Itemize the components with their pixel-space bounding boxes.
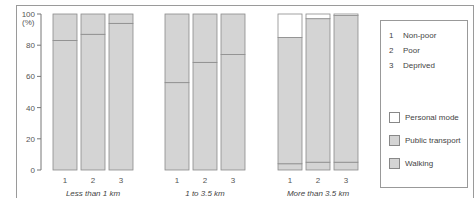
x-category-label: 3 bbox=[231, 176, 236, 185]
bar-segment-walking bbox=[53, 41, 77, 170]
y-tick-label: 80 bbox=[26, 41, 35, 50]
bar-segment-walking bbox=[165, 83, 189, 170]
legend-key-label: Non-poor bbox=[403, 31, 436, 40]
bar-segment-public-transport bbox=[306, 19, 330, 163]
x-category-label: 1 bbox=[288, 176, 293, 185]
legend-entry-label: Public transport bbox=[405, 136, 461, 145]
stacked-bar-chart: 020406080100(%)123Less than 1 km1231 to … bbox=[0, 0, 380, 210]
legend-entry-public-transport: Public transport bbox=[389, 135, 461, 146]
bar-segment-public-transport bbox=[81, 14, 105, 34]
legend-key-num: 2 bbox=[389, 46, 403, 55]
x-category-label: 3 bbox=[119, 176, 124, 185]
legend-swatch bbox=[389, 158, 400, 169]
bar-segment-personal-mode bbox=[306, 14, 330, 19]
bar-segment-walking bbox=[193, 62, 217, 170]
x-group-label: Less than 1 km bbox=[66, 189, 121, 198]
bar-segment-personal-mode bbox=[334, 14, 358, 16]
bar-segment-public-transport bbox=[193, 14, 217, 62]
bar-segment-walking bbox=[109, 23, 133, 170]
x-category-label: 2 bbox=[91, 176, 96, 185]
y-tick-label: 60 bbox=[26, 72, 35, 81]
legend-key-num: 3 bbox=[389, 61, 403, 70]
x-category-label: 2 bbox=[203, 176, 208, 185]
bar-segment-public-transport bbox=[221, 14, 245, 55]
bar-segment-walking bbox=[81, 34, 105, 170]
bar-segment-walking bbox=[221, 55, 245, 170]
bar-segment-walking bbox=[306, 162, 330, 170]
x-category-label: 2 bbox=[316, 176, 321, 185]
x-category-label: 1 bbox=[63, 176, 68, 185]
y-tick-label: 20 bbox=[26, 135, 35, 144]
y-axis-unit-label: (%) bbox=[22, 18, 35, 27]
x-category-label: 3 bbox=[344, 176, 349, 185]
legend-entry-label: Walking bbox=[405, 159, 433, 168]
legend-key-num: 1 bbox=[389, 31, 403, 40]
legend-key-3: 3 Deprived bbox=[389, 61, 435, 70]
x-category-label: 1 bbox=[175, 176, 180, 185]
bar-segment-personal-mode bbox=[278, 14, 302, 37]
x-group-label: More than 3.5 km bbox=[287, 189, 350, 198]
legend-key-1: 1 Non-poor bbox=[389, 31, 436, 40]
bar-segment-walking bbox=[278, 164, 302, 170]
legend: 1 Non-poor 2 Poor 3 Deprived Personal mo… bbox=[380, 20, 468, 188]
legend-swatch bbox=[389, 135, 400, 146]
legend-swatch bbox=[389, 112, 400, 123]
legend-key-label: Poor bbox=[403, 46, 420, 55]
x-group-label: 1 to 3.5 km bbox=[185, 189, 225, 198]
bar-segment-public-transport bbox=[53, 14, 77, 41]
bar-segment-public-transport bbox=[109, 14, 133, 23]
legend-entry-label: Personal mode bbox=[405, 113, 459, 122]
legend-entry-walking: Walking bbox=[389, 158, 433, 169]
legend-key-label: Deprived bbox=[403, 61, 435, 70]
bar-segment-walking bbox=[334, 162, 358, 170]
y-tick-label: 40 bbox=[26, 104, 35, 113]
bar-segment-public-transport bbox=[165, 14, 189, 83]
y-tick-label: 0 bbox=[31, 166, 36, 175]
legend-key-2: 2 Poor bbox=[389, 46, 420, 55]
bar-segment-public-transport bbox=[278, 37, 302, 163]
bar-segment-public-transport bbox=[334, 16, 358, 163]
legend-entry-personal-mode: Personal mode bbox=[389, 112, 459, 123]
